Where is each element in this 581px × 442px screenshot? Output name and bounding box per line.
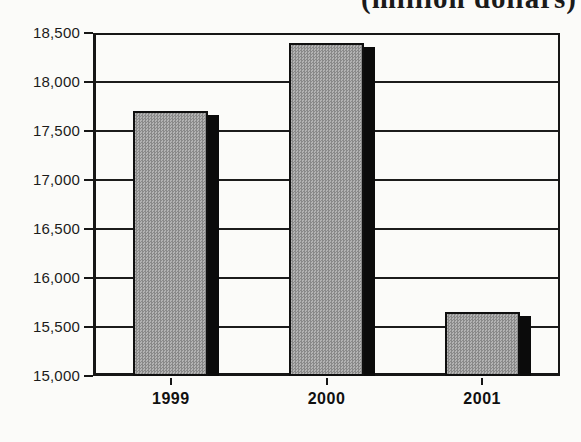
y-axis-tick <box>84 375 93 377</box>
y-axis-label: 17,500 <box>6 121 80 141</box>
y-axis-tick <box>84 326 93 328</box>
bar-chart-figure: (million dollars) 18,50018,00017,50017,0… <box>0 0 581 442</box>
y-axis-label: 18,500 <box>6 23 80 43</box>
y-axis-label: 16,500 <box>6 219 80 239</box>
x-axis-label: 2000 <box>287 390 367 408</box>
y-axis-label: 17,000 <box>6 170 80 190</box>
x-axis-tick <box>170 378 172 385</box>
bar-1999 <box>133 111 208 376</box>
y-axis-tick <box>84 277 93 279</box>
x-axis-tick <box>326 378 328 385</box>
x-axis-label: 2001 <box>442 390 522 408</box>
y-axis-label: 18,000 <box>6 72 80 92</box>
y-axis-tick <box>84 130 93 132</box>
y-axis-label: 15,500 <box>6 317 80 337</box>
y-axis-tick <box>84 179 93 181</box>
bar-2001 <box>445 312 520 376</box>
x-axis-label: 1999 <box>131 390 211 408</box>
chart-title: (million dollars) <box>361 0 577 15</box>
y-axis-label: 15,000 <box>6 366 80 386</box>
y-axis-label: 16,000 <box>6 268 80 288</box>
bar-2000 <box>289 43 364 376</box>
y-axis-tick <box>84 228 93 230</box>
y-axis-tick <box>84 32 93 34</box>
x-axis-tick <box>481 378 483 385</box>
y-axis-tick <box>84 81 93 83</box>
